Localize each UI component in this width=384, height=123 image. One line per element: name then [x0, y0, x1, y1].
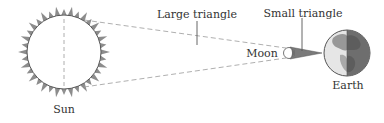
- small-triangle-label: Small triangle: [264, 7, 343, 20]
- large-triangle-lower-edge: [84, 58, 286, 87]
- sun-moon-earth-diagram: Large triangle Small triangle Moon Earth…: [0, 0, 384, 123]
- sun-label: Sun: [53, 103, 75, 116]
- large-triangle-upper-edge: [84, 20, 286, 48]
- earth-label: Earth: [332, 79, 363, 92]
- moon: [284, 48, 295, 59]
- large-triangle-label: Large triangle: [157, 8, 237, 21]
- earth: [324, 30, 370, 76]
- moon-label: Moon: [246, 47, 278, 60]
